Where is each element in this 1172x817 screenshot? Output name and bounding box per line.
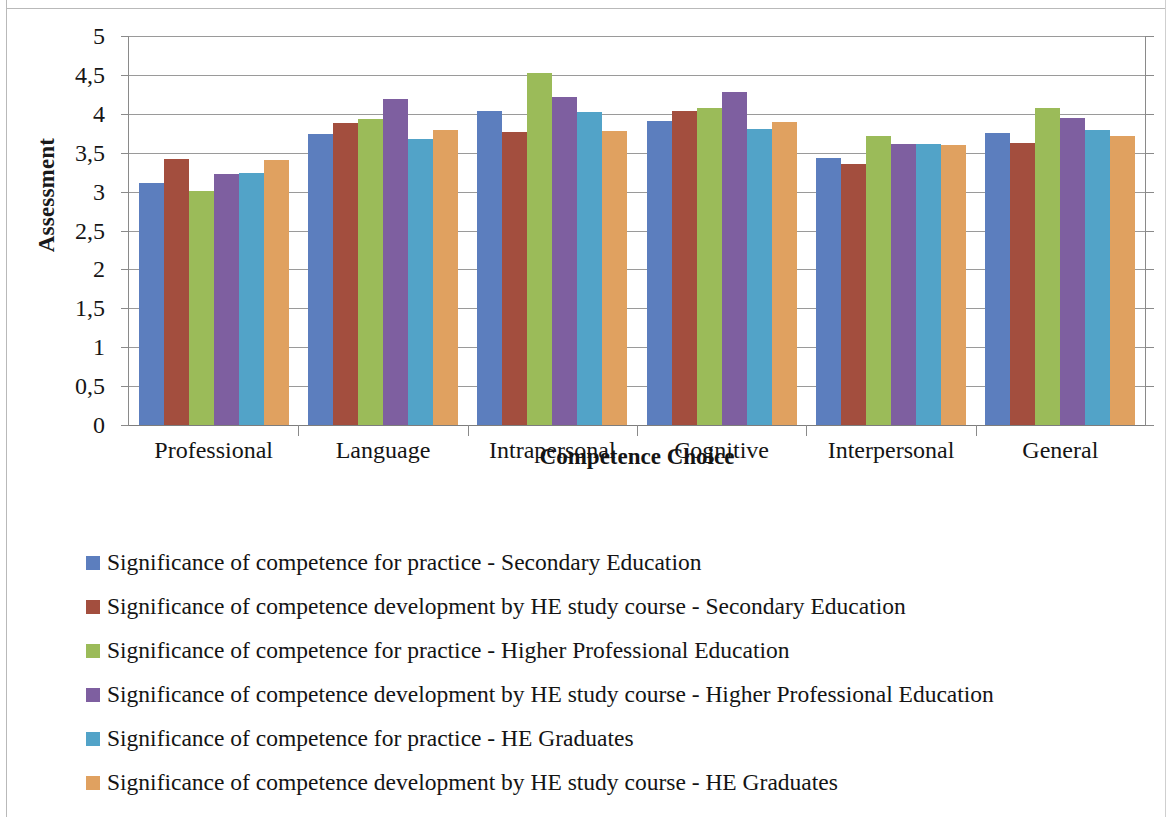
legend-item[interactable]: Significance of competence development b…	[86, 761, 1146, 805]
y-axis-tick-label: 3,5	[0, 141, 105, 165]
y-axis-tick-mark	[121, 269, 129, 270]
bar[interactable]	[214, 174, 239, 425]
y-axis-tick-label: 2	[0, 257, 105, 281]
legend-item[interactable]: Significance of competence for practice …	[86, 717, 1146, 761]
y-axis-tick-label: 2,5	[0, 219, 105, 243]
bar[interactable]	[941, 145, 966, 425]
y-axis-tick-mark	[121, 114, 129, 115]
y-axis-tick-mark	[121, 75, 129, 76]
legend-item[interactable]: Significance of competence for practice …	[86, 629, 1146, 673]
bar[interactable]	[577, 112, 602, 425]
bar[interactable]	[1010, 143, 1035, 425]
legend-item-label: Significance of competence development b…	[107, 771, 838, 795]
chart-legend: Significance of competence for practice …	[86, 541, 1146, 805]
bar[interactable]	[139, 183, 164, 425]
legend-swatch-icon	[86, 556, 100, 570]
bar[interactable]	[722, 92, 747, 425]
y-axis-tick-label: 1,5	[0, 296, 105, 320]
legend-item-label: Significance of competence for practice …	[107, 639, 790, 663]
legend-item-label: Significance of competence for practice …	[107, 727, 634, 751]
bar[interactable]	[239, 173, 264, 425]
bar[interactable]	[602, 131, 627, 425]
bar[interactable]	[552, 97, 577, 425]
y-axis-tick-mark-right	[1145, 308, 1154, 309]
bar[interactable]	[891, 144, 916, 425]
bar[interactable]	[747, 129, 772, 425]
bar[interactable]	[383, 99, 408, 425]
chart-page: Assessment 54,543,532,521,510,50Professi…	[0, 0, 1172, 817]
x-axis-category-separator	[806, 425, 807, 436]
y-axis-tick-label: 4,5	[0, 63, 105, 87]
bar[interactable]	[264, 160, 289, 425]
bar[interactable]	[308, 134, 333, 425]
legend-item[interactable]: Significance of competence development b…	[86, 585, 1146, 629]
bar-chart: Assessment 54,543,532,521,510,50Professi…	[0, 0, 1172, 530]
legend-swatch-icon	[86, 644, 100, 658]
legend-item-label: Significance of competence development b…	[107, 595, 906, 619]
y-axis-tick-label: 4	[0, 102, 105, 126]
bar[interactable]	[841, 164, 866, 425]
bar[interactable]	[164, 159, 189, 425]
y-axis-tick-mark-right	[1145, 425, 1154, 426]
legend-swatch-icon	[86, 732, 100, 746]
y-axis-tick-label: 3	[0, 180, 105, 204]
bar[interactable]	[358, 119, 383, 425]
bar[interactable]	[333, 123, 358, 425]
y-axis-tick-mark	[121, 36, 129, 37]
y-axis-tick-mark	[121, 425, 129, 426]
y-axis-tick-label: 0,5	[0, 374, 105, 398]
legend-item-label: Significance of competence for practice …	[107, 551, 701, 575]
y-axis-tick-mark	[121, 192, 129, 193]
bar[interactable]	[1085, 130, 1110, 425]
bar-group	[976, 36, 1145, 425]
y-axis-tick-label: 1	[0, 335, 105, 359]
bar[interactable]	[502, 132, 527, 425]
y-axis-tick-mark	[121, 308, 129, 309]
bar[interactable]	[672, 111, 697, 425]
y-axis-tick-label: 0	[0, 413, 105, 437]
bar[interactable]	[697, 108, 722, 425]
legend-swatch-icon	[86, 688, 100, 702]
y-axis-tick-mark-right	[1145, 386, 1154, 387]
y-axis-tick-mark-right	[1145, 192, 1154, 193]
bar[interactable]	[527, 73, 552, 425]
y-axis-tick-mark-right	[1145, 75, 1154, 76]
bar[interactable]	[477, 111, 502, 425]
y-axis-tick-mark-right	[1145, 153, 1154, 154]
bar[interactable]	[1060, 118, 1085, 425]
bar[interactable]	[189, 191, 214, 425]
legend-item[interactable]: Significance of competence development b…	[86, 673, 1146, 717]
y-axis-tick-mark	[121, 347, 129, 348]
bar[interactable]	[1110, 136, 1135, 425]
legend-item[interactable]: Significance of competence for practice …	[86, 541, 1146, 585]
y-axis-tick-mark	[121, 153, 129, 154]
bar[interactable]	[866, 136, 891, 425]
y-axis-tick-mark-right	[1145, 36, 1154, 37]
y-axis-tick-label: 5	[0, 24, 105, 48]
legend-swatch-icon	[86, 776, 100, 790]
legend-swatch-icon	[86, 600, 100, 614]
y-axis-tick-mark-right	[1145, 347, 1154, 348]
bar[interactable]	[647, 121, 672, 425]
x-axis-category-separator	[468, 425, 469, 436]
x-axis-category-separator	[298, 425, 299, 436]
bar[interactable]	[408, 139, 433, 425]
x-axis-title: Competence Choice	[129, 444, 1145, 470]
y-axis-tick-mark-right	[1145, 269, 1154, 270]
bar-group	[129, 36, 298, 425]
bar[interactable]	[772, 122, 797, 425]
bar[interactable]	[985, 133, 1010, 425]
y-axis-tick-mark	[121, 231, 129, 232]
x-axis-category-separator	[637, 425, 638, 436]
legend-item-label: Significance of competence development b…	[107, 683, 994, 707]
x-axis-category-separator	[976, 425, 977, 436]
y-axis-tick-mark-right	[1145, 114, 1154, 115]
bar[interactable]	[433, 130, 458, 425]
bar[interactable]	[1035, 108, 1060, 425]
bar[interactable]	[816, 158, 841, 425]
bar[interactable]	[916, 144, 941, 425]
y-axis-tick-mark	[121, 386, 129, 387]
bar-group	[637, 36, 806, 425]
bar-group	[806, 36, 975, 425]
plot-area: 54,543,532,521,510,50ProfessionalLanguag…	[129, 36, 1145, 425]
